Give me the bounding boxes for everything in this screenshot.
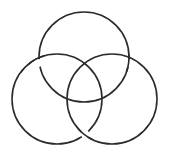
ring-top bbox=[39, 12, 129, 102]
rings-svg bbox=[0, 0, 169, 154]
ring-left bbox=[12, 54, 102, 144]
borromean-rings-diagram: Borromean rings bbox=[0, 0, 169, 154]
